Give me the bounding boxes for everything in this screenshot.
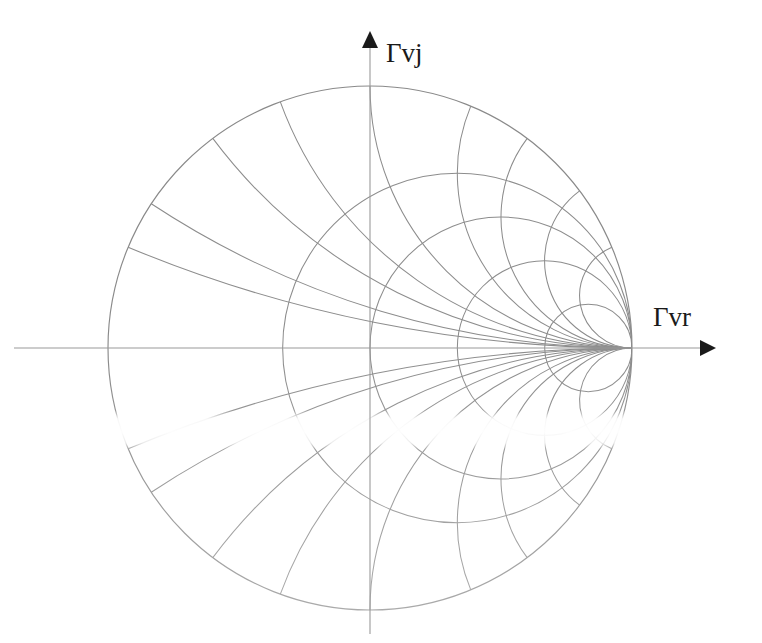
horizontal-axis-label: Γvr (653, 302, 691, 332)
smith-chart-canvas: Γvj Γvr (0, 0, 762, 643)
smith-chart-figure: Γvj Γvr (0, 0, 762, 643)
vertical-axis-label: Γvj (386, 38, 423, 68)
figure-background (0, 0, 762, 643)
